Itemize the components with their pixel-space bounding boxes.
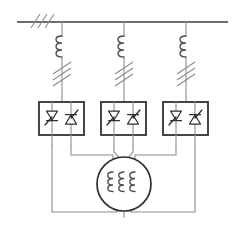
wire-a2-to-machine xyxy=(71,146,113,163)
machine-body-circle[interactable] xyxy=(97,157,151,211)
thyristor-module-b-box[interactable] xyxy=(101,102,146,135)
line-reactor-a xyxy=(56,36,62,57)
line-reactor-b-coil xyxy=(118,36,124,57)
thyristor-module-c[interactable] xyxy=(163,102,208,146)
line-reactor-c-coil xyxy=(180,36,186,57)
supply-bus xyxy=(17,14,228,28)
schematic-canvas xyxy=(0,0,245,227)
thyristor-module-a[interactable] xyxy=(39,102,84,146)
wire-c1-to-machine xyxy=(135,146,176,163)
phase-a-branch xyxy=(53,22,71,102)
thyristor-module-a-box[interactable] xyxy=(39,102,84,135)
line-reactor-b xyxy=(118,36,124,57)
three-phase-machine[interactable] xyxy=(97,157,151,211)
schematic-diagram xyxy=(0,0,245,227)
phase-b-branch xyxy=(115,22,133,102)
line-reactor-c xyxy=(180,36,186,57)
phase-c-branch xyxy=(177,22,195,102)
thyristor-module-b[interactable] xyxy=(101,102,146,146)
thyristor-module-c-box[interactable] xyxy=(163,102,208,135)
line-reactor-a-coil xyxy=(56,36,62,57)
